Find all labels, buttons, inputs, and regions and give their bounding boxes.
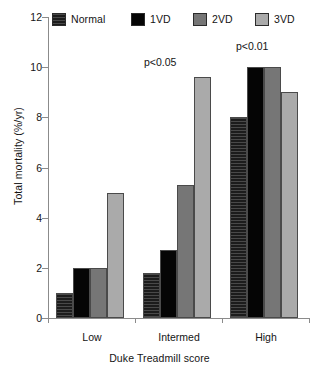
chart-figure: Normal 1VD 2VD 3VD 024681012 LowIntermed… bbox=[0, 0, 319, 372]
bar-high-3vd bbox=[281, 92, 298, 318]
bar-high-2vd bbox=[264, 67, 281, 318]
bar-low-1vd bbox=[73, 268, 90, 318]
bar-high-normal bbox=[230, 117, 247, 318]
bar-low-normal bbox=[56, 293, 73, 318]
x-label-high: High bbox=[221, 331, 311, 343]
bar-low-2vd bbox=[90, 268, 107, 318]
x-axis-title: Duke Treadmill score bbox=[0, 352, 319, 364]
x-axis-line bbox=[48, 318, 309, 319]
x-tick-intermed bbox=[135, 318, 136, 323]
x-tick-high bbox=[222, 318, 223, 323]
bar-intermed-1vd bbox=[160, 250, 177, 318]
x-tick-low bbox=[48, 318, 49, 323]
y-tick-label-0: 0 bbox=[0, 313, 42, 323]
bar-intermed-normal bbox=[143, 273, 160, 318]
annotation-intermed-pvalue: p<0.05 bbox=[144, 57, 176, 68]
x-label-intermed: Intermed bbox=[134, 331, 224, 343]
bars-area bbox=[48, 17, 309, 318]
x-tick-end bbox=[309, 318, 310, 323]
bar-intermed-3vd bbox=[194, 77, 211, 318]
y-axis-title: Total mortality (%/yr) bbox=[12, 16, 24, 296]
annotation-high-pvalue: p<0.01 bbox=[236, 41, 268, 52]
x-label-low: Low bbox=[47, 331, 137, 343]
bar-low-3vd bbox=[107, 193, 124, 318]
bar-high-1vd bbox=[247, 67, 264, 318]
bar-intermed-2vd bbox=[177, 185, 194, 318]
